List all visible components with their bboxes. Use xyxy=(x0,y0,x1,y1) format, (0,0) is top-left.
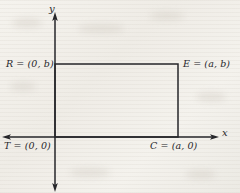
diagram-svg xyxy=(0,0,240,193)
vertex-label-e: E = (a, b) xyxy=(183,59,230,69)
rectangle-shape xyxy=(55,64,178,137)
y-axis-label: y xyxy=(49,4,55,14)
x-axis-label: x xyxy=(222,128,228,138)
vertex-label-r: R = (0, b) xyxy=(6,59,54,69)
vertex-label-t: T = (0, 0) xyxy=(4,141,51,151)
vertex-label-c: C = (a, 0) xyxy=(150,141,197,151)
figure-canvas: y x R = (0, b) E = (a, b) T = (0, 0) C =… xyxy=(0,0,240,193)
